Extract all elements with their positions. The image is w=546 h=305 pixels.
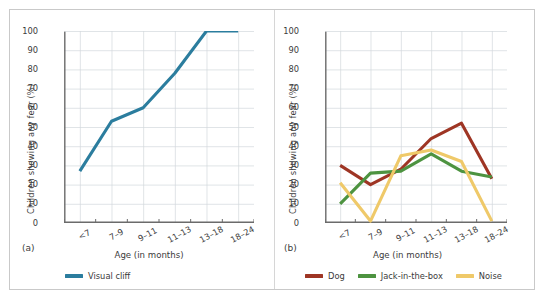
legend-item-visual-cliff[interactable]: Visual cliff: [65, 271, 130, 281]
x-tick-label: 7–9: [366, 227, 384, 243]
legend-item-dog[interactable]: Dog: [305, 271, 345, 281]
legend-swatch-icon: [305, 274, 323, 278]
figure-root: Children showing any fear (%) 0102030405…: [0, 0, 546, 305]
y-tick-label: 80: [16, 65, 38, 74]
data-line-visual-cliff: [80, 31, 238, 171]
x-axis-title-b: Age (in months): [300, 250, 515, 260]
panel-a: Children showing any fear (%) 0102030405…: [9, 9, 274, 290]
y-tick-label: 60: [16, 103, 38, 112]
x-tick-label: 9–11: [394, 225, 416, 243]
legend-label: Visual cliff: [88, 271, 130, 281]
y-tick-label: 10: [277, 199, 299, 208]
legend-label: Noise: [479, 271, 502, 281]
y-tick-label: 70: [16, 84, 38, 93]
x-tick-label: 7–9: [107, 227, 125, 243]
y-tick-label: 100: [277, 27, 299, 36]
y-tick-label: 60: [277, 103, 299, 112]
y-tick-label: 90: [16, 46, 38, 55]
plot-area-b: [325, 31, 507, 223]
y-tick-label: 20: [277, 180, 299, 189]
x-tick-label: <7: [76, 227, 91, 242]
legend-item-jack-in-the-box[interactable]: Jack-in-the-box: [358, 271, 443, 281]
y-tick-label: 40: [16, 142, 38, 151]
y-tick-label: 70: [277, 84, 299, 93]
x-tick-label: 18–24: [229, 224, 256, 245]
y-tick-label: 80: [277, 65, 299, 74]
x-tick-label: 13–18: [452, 224, 479, 245]
y-tick-label: 30: [16, 161, 38, 170]
legend-label: Dog: [328, 271, 345, 281]
y-tick-label: 50: [16, 123, 38, 132]
plot-area-a: [64, 31, 254, 223]
x-tick-label: <7: [337, 227, 352, 242]
line-chart-b: [325, 31, 507, 223]
legend-b: DogJack-in-the-boxNoise: [305, 271, 502, 281]
legend-swatch-icon: [65, 274, 83, 278]
x-tick-label: 18–24: [483, 224, 510, 245]
y-tick-label: 20: [16, 180, 38, 189]
y-tick-label: 30: [277, 161, 299, 170]
y-axis-tick-labels-a: 0102030405060708090100: [16, 31, 38, 223]
x-tick-label: 9–11: [136, 225, 158, 243]
line-chart-a: [64, 31, 254, 223]
y-tick-label: 100: [16, 27, 38, 36]
y-tick-label: 10: [16, 199, 38, 208]
panel-b: Children showing any fear (%) 0102030405…: [275, 9, 535, 290]
legend-swatch-icon: [358, 274, 376, 278]
x-tick-label: 13–18: [197, 224, 224, 245]
legend-swatch-icon: [456, 274, 474, 278]
x-tick-label: 11–13: [422, 224, 449, 245]
panel-label-a: (a): [22, 243, 35, 253]
y-tick-label: 90: [277, 46, 299, 55]
panel-label-b: (b): [284, 243, 297, 253]
y-axis-tick-labels-b: 0102030405060708090100: [277, 31, 299, 223]
y-tick-label: 0: [16, 219, 38, 228]
x-axis-title-a: Age (in months): [39, 250, 259, 260]
data-line-noise: [340, 150, 492, 221]
x-tick-label: 11–13: [166, 224, 193, 245]
legend-item-noise[interactable]: Noise: [456, 271, 502, 281]
legend-a: Visual cliff: [65, 271, 130, 281]
y-tick-label: 50: [277, 123, 299, 132]
legend-label: Jack-in-the-box: [381, 271, 443, 281]
y-tick-label: 0: [277, 219, 299, 228]
y-tick-label: 40: [277, 142, 299, 151]
